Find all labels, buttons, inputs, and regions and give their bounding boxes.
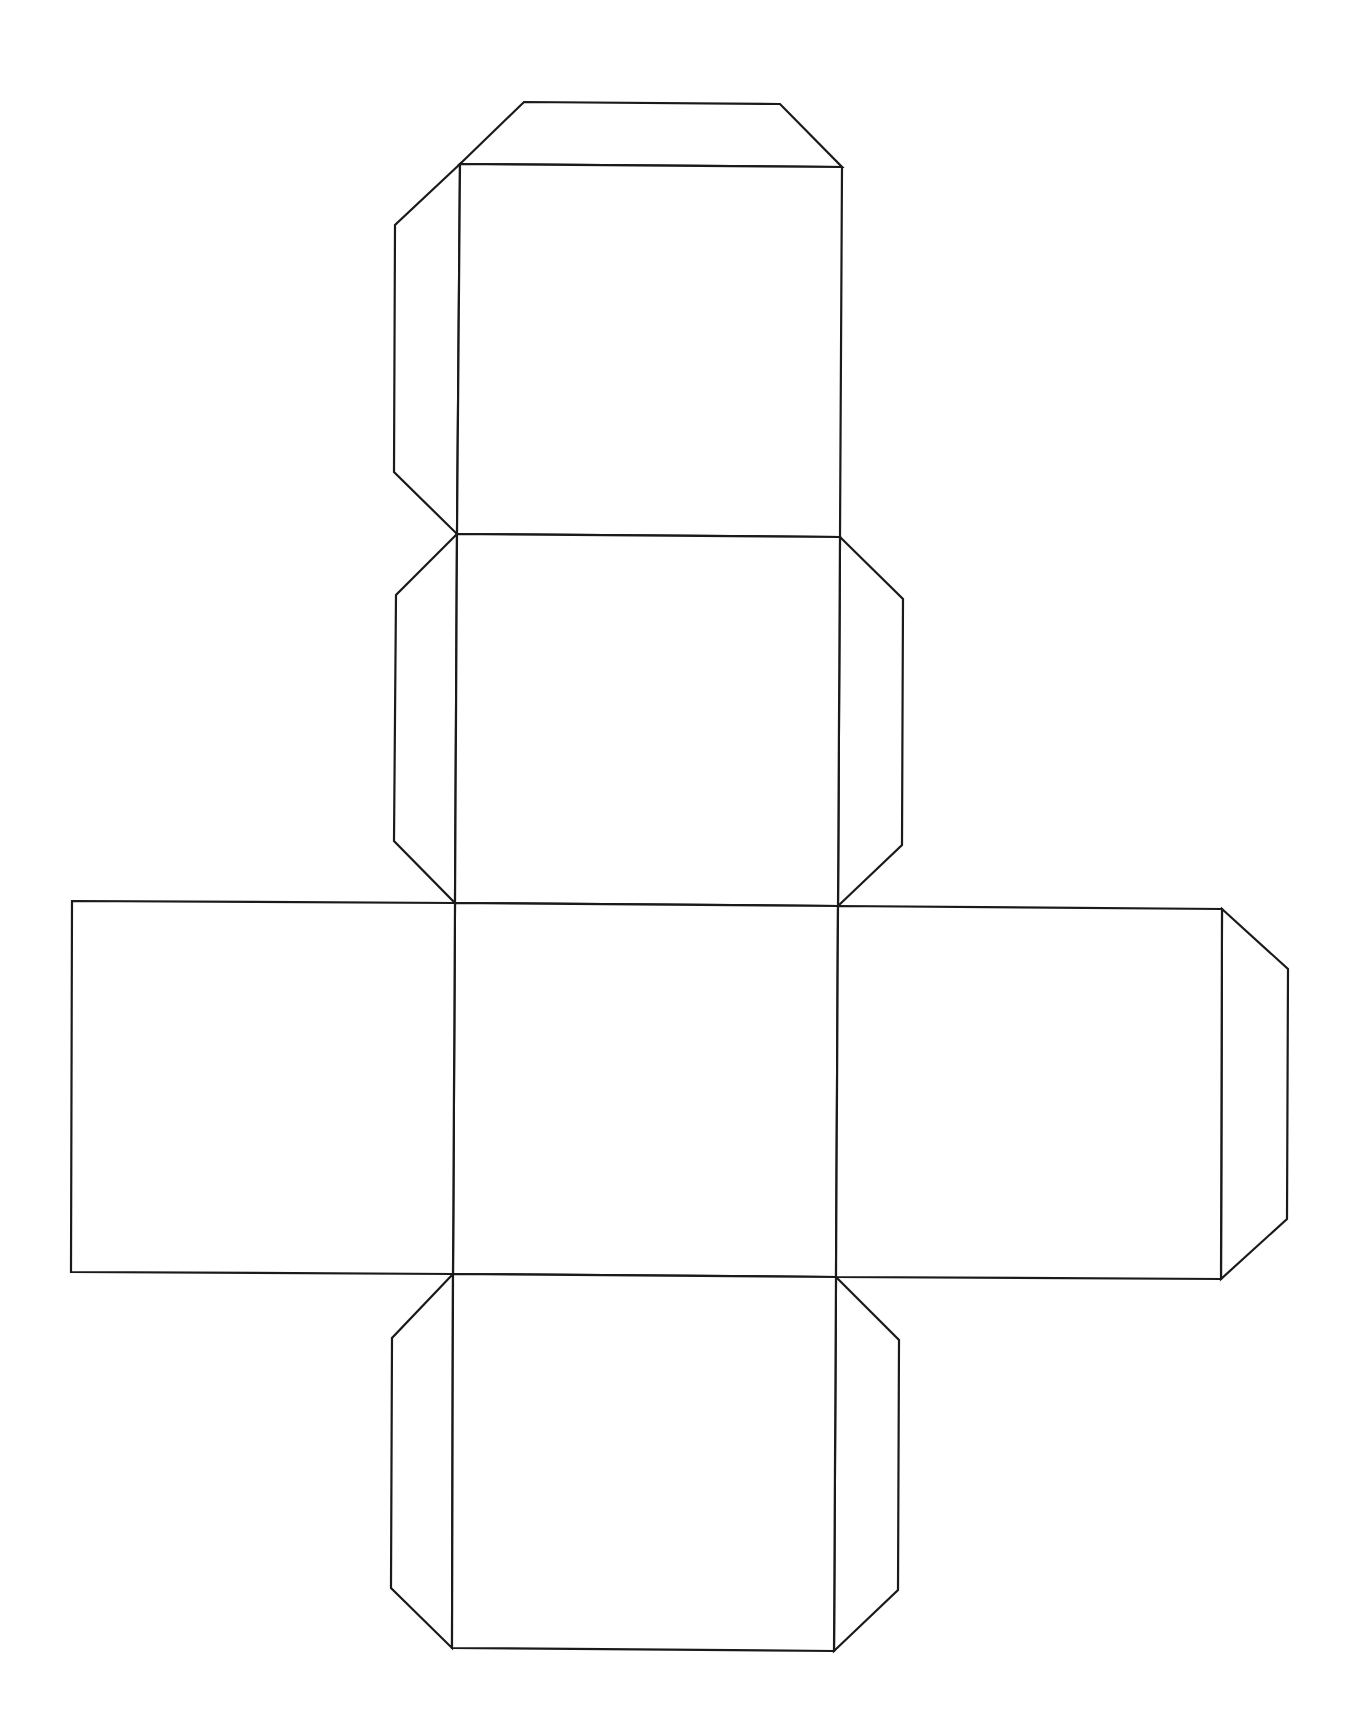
right-face	[836, 906, 1222, 1279]
bottom-face	[452, 1274, 836, 1651]
bottom-left-tab	[391, 1274, 453, 1648]
top-face	[457, 164, 842, 537]
cube-faces	[71, 164, 1222, 1651]
center-face	[453, 903, 838, 1277]
cube-net-diagram	[0, 0, 1362, 1733]
left-face	[71, 901, 455, 1274]
top-tab	[460, 102, 842, 167]
bottom-right-tab	[834, 1277, 899, 1651]
upper-left-tab	[394, 534, 457, 903]
upper-face	[455, 534, 840, 906]
right-tab	[1221, 909, 1288, 1279]
top-left-tab	[394, 164, 460, 534]
upper-right-tab	[838, 537, 903, 906]
